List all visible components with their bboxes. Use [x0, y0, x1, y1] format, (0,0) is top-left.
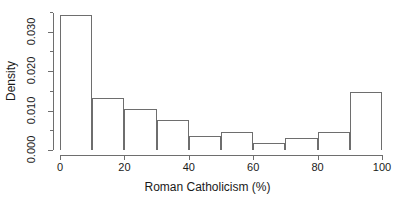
histogram-bar	[189, 136, 221, 150]
histogram-bar	[92, 98, 124, 150]
y-tick-mark	[48, 150, 53, 151]
y-tick-label: 0.030	[0, 26, 46, 37]
plot-area	[60, 10, 382, 150]
x-axis-title: Roman Catholicism (%)	[0, 180, 415, 194]
y-axis-title: Density	[4, 41, 18, 121]
histogram-bar	[350, 92, 382, 150]
histogram-bar	[318, 132, 350, 150]
y-tick-mark	[48, 32, 53, 33]
y-tick-mark-minor	[50, 12, 53, 13]
y-tick-mark	[48, 71, 53, 72]
histogram-figure: 020406080100 0.0000.0100.0200.030 Roman …	[0, 0, 415, 201]
y-tick-mark-minor	[50, 91, 53, 92]
histogram-bar	[124, 109, 156, 150]
x-tick-mark	[253, 155, 254, 160]
histogram-bar	[157, 120, 189, 150]
x-tick-label: 60	[233, 161, 273, 174]
y-tick-label: 0.000	[0, 144, 46, 155]
y-tick-mark-minor	[50, 51, 53, 52]
x-tick-mark	[189, 155, 190, 160]
x-tick-label: 100	[362, 161, 402, 174]
y-axis-line	[53, 13, 54, 150]
histogram-bar	[221, 132, 253, 150]
y-tick-mark-minor	[50, 130, 53, 131]
histogram-bar	[285, 138, 317, 150]
x-tick-mark	[124, 155, 125, 160]
x-tick-label: 40	[169, 161, 209, 174]
x-tick-label: 80	[298, 161, 338, 174]
histogram-bar	[253, 143, 285, 150]
x-tick-mark	[318, 155, 319, 160]
bars-container	[60, 10, 382, 150]
x-tick-mark	[382, 155, 383, 160]
histogram-bar	[60, 15, 92, 150]
x-tick-mark	[60, 155, 61, 160]
x-tick-label: 20	[104, 161, 144, 174]
x-axis-line	[60, 155, 382, 156]
x-tick-label: 0	[40, 161, 80, 174]
y-tick-mark	[48, 111, 53, 112]
